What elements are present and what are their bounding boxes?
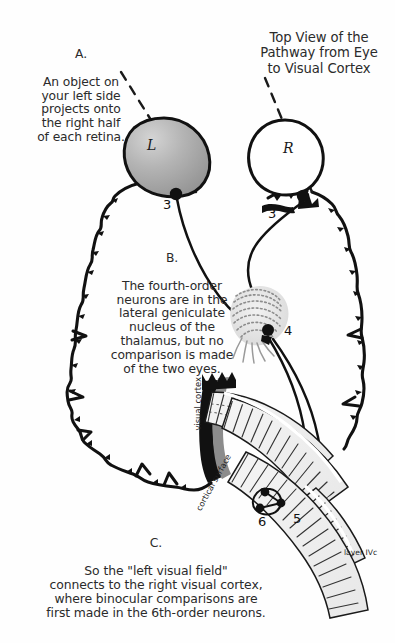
label-visual-cortex: visual cortex [194,373,204,435]
caption-c: C. So the "left visual field" connects t… [6,522,306,620]
visual-pathway-figure: A. An object on your left side projects … [0,0,395,643]
caption-a: A. An object on your left side projects … [6,34,156,145]
label-order-3-left: 3 [163,197,171,212]
label-order-4-lgn: 4 [284,323,292,338]
caption-a-text: An object on your left side projects ont… [37,75,125,145]
caption-a-label: A. [6,48,156,62]
right-retina-node [297,190,309,202]
caption-c-label: C. [6,536,306,550]
lgn-node [262,324,274,336]
right-eye-letter: R [283,140,294,156]
caption-c-text: So the "left visual field" connects to t… [46,563,265,620]
caption-b: B. The fourth-order neurons are in the l… [88,238,256,377]
figure-title: Top View of the Pathway from Eye to Visu… [243,30,395,76]
label-order-3-right: 3 [268,206,276,221]
left-eye-letter: L [147,137,156,153]
label-order-5: 5 [293,511,301,526]
label-order-6: 6 [258,514,266,529]
caption-b-label: B. [88,252,256,266]
right-eye [249,120,324,195]
label-layer-ivc: layer IVc [344,549,384,558]
caption-b-text: The fourth-order neurons are in the late… [111,279,234,376]
